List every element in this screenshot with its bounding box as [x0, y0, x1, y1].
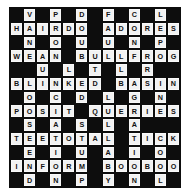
crossword-letter-cell[interactable]: A [102, 146, 115, 160]
crossword-letter-cell[interactable]: O [49, 36, 62, 50]
crossword-letter-cell[interactable]: E [154, 104, 167, 118]
crossword-letter-cell[interactable]: O [62, 132, 75, 146]
crossword-letter-cell[interactable]: T [62, 104, 75, 118]
crossword-letter-cell[interactable]: I [128, 146, 141, 160]
crossword-letter-cell[interactable]: R [141, 49, 154, 63]
crossword-letter-cell[interactable]: T [128, 132, 141, 146]
crossword-letter-cell[interactable]: K [62, 77, 75, 91]
crossword-letter-cell[interactable]: S [23, 118, 36, 132]
crossword-letter-cell[interactable]: I [10, 159, 23, 173]
crossword-letter-cell[interactable]: R [62, 159, 75, 173]
crossword-letter-cell[interactable]: S [141, 77, 154, 91]
crossword-letter-cell[interactable]: Q [88, 104, 101, 118]
crossword-letter-cell[interactable]: L [154, 8, 167, 22]
crossword-letter-cell[interactable]: D [75, 91, 88, 105]
crossword-letter-cell[interactable]: P [10, 104, 23, 118]
crossword-letter-cell[interactable]: O [167, 159, 180, 173]
crossword-letter-cell[interactable]: C [49, 91, 62, 105]
crossword-letter-cell[interactable]: U [102, 36, 115, 50]
crossword-letter-cell[interactable]: K [167, 132, 180, 146]
crossword-letter-cell[interactable]: U [75, 146, 88, 160]
crossword-letter-cell[interactable]: N [128, 36, 141, 50]
crossword-letter-cell[interactable]: O [23, 91, 36, 105]
crossword-letter-cell[interactable]: O [154, 49, 167, 63]
crossword-letter-cell[interactable]: L [62, 63, 75, 77]
crossword-letter-cell[interactable]: I [141, 132, 154, 146]
crossword-grid[interactable]: VPDFCLHAIRDOADORESNOUUNPWEANBULLFROGULTL… [9, 7, 181, 188]
crossword-letter-cell[interactable]: A [102, 22, 115, 36]
crossword-letter-cell[interactable]: E [23, 49, 36, 63]
crossword-letter-cell[interactable]: N [128, 173, 141, 187]
crossword-letter-cell[interactable]: D [62, 22, 75, 36]
crossword-letter-cell[interactable]: W [10, 49, 23, 63]
crossword-letter-cell[interactable]: I [154, 77, 167, 91]
crossword-letter-cell[interactable]: R [141, 63, 154, 77]
crossword-letter-cell[interactable]: S [75, 118, 88, 132]
crossword-letter-cell[interactable]: E [75, 77, 88, 91]
crossword-letter-cell[interactable]: C [154, 132, 167, 146]
crossword-letter-cell[interactable]: I [36, 22, 49, 36]
crossword-letter-cell[interactable]: F [128, 49, 141, 63]
crossword-letter-cell[interactable]: N [23, 159, 36, 173]
crossword-letter-cell[interactable]: A [36, 49, 49, 63]
crossword-letter-cell[interactable]: L [115, 49, 128, 63]
crossword-letter-cell[interactable]: I [36, 77, 49, 91]
crossword-letter-cell[interactable]: B [115, 77, 128, 91]
crossword-letter-cell[interactable]: N [167, 77, 180, 91]
crossword-letter-cell[interactable]: Y [102, 173, 115, 187]
crossword-letter-cell[interactable]: T [88, 63, 101, 77]
crossword-letter-cell[interactable]: P [75, 173, 88, 187]
crossword-letter-cell[interactable]: S [36, 104, 49, 118]
crossword-letter-cell[interactable]: E [36, 132, 49, 146]
crossword-letter-cell[interactable]: U [36, 63, 49, 77]
crossword-letter-cell[interactable]: L [102, 91, 115, 105]
crossword-letter-cell[interactable]: R [128, 104, 141, 118]
crossword-letter-cell[interactable]: D [75, 8, 88, 22]
crossword-letter-cell[interactable]: B [102, 159, 115, 173]
crossword-letter-cell[interactable]: E [115, 104, 128, 118]
crossword-letter-cell[interactable]: L [102, 118, 115, 132]
crossword-letter-cell[interactable]: P [49, 8, 62, 22]
crossword-letter-cell[interactable]: F [102, 8, 115, 22]
crossword-letter-cell[interactable]: H [10, 22, 23, 36]
crossword-letter-cell[interactable]: T [75, 132, 88, 146]
crossword-letter-cell[interactable]: U [75, 36, 88, 50]
crossword-letter-cell[interactable]: E [154, 22, 167, 36]
crossword-letter-cell[interactable]: L [23, 77, 36, 91]
crossword-letter-cell[interactable]: N [23, 36, 36, 50]
crossword-letter-cell[interactable]: B [141, 159, 154, 173]
crossword-letter-cell[interactable]: L [102, 49, 115, 63]
crossword-letter-cell[interactable]: L [102, 132, 115, 146]
crossword-letter-cell[interactable]: N [49, 77, 62, 91]
crossword-letter-cell[interactable]: B [75, 49, 88, 63]
crossword-letter-cell[interactable]: A [23, 22, 36, 36]
crossword-letter-cell[interactable]: A [128, 77, 141, 91]
crossword-letter-cell[interactable]: G [128, 91, 141, 105]
crossword-letter-cell[interactable]: O [154, 146, 167, 160]
crossword-letter-cell[interactable]: S [167, 22, 180, 36]
crossword-letter-cell[interactable]: L [115, 63, 128, 77]
crossword-letter-cell[interactable]: I [49, 104, 62, 118]
crossword-letter-cell[interactable]: V [23, 8, 36, 22]
crossword-letter-cell[interactable]: N [154, 91, 167, 105]
crossword-letter-cell[interactable]: D [23, 173, 36, 187]
crossword-letter-cell[interactable]: R [49, 22, 62, 36]
crossword-letter-cell[interactable]: U [88, 49, 101, 63]
crossword-letter-cell[interactable]: D [115, 22, 128, 36]
crossword-letter-cell[interactable]: G [167, 49, 180, 63]
crossword-letter-cell[interactable]: O [154, 159, 167, 173]
crossword-letter-cell[interactable]: S [167, 104, 180, 118]
crossword-letter-cell[interactable]: O [128, 159, 141, 173]
crossword-letter-cell[interactable]: O [75, 22, 88, 36]
crossword-letter-cell[interactable]: P [154, 36, 167, 50]
crossword-letter-cell[interactable]: R [141, 22, 154, 36]
crossword-letter-cell[interactable]: D [88, 77, 101, 91]
crossword-letter-cell[interactable]: I [49, 146, 62, 160]
crossword-letter-cell[interactable]: O [49, 159, 62, 173]
crossword-letter-cell[interactable]: T [10, 132, 23, 146]
crossword-letter-cell[interactable]: M [75, 159, 88, 173]
crossword-letter-cell[interactable]: O [128, 22, 141, 36]
crossword-letter-cell[interactable]: E [23, 132, 36, 146]
crossword-letter-cell[interactable]: A [128, 118, 141, 132]
crossword-letter-cell[interactable]: A [49, 118, 62, 132]
